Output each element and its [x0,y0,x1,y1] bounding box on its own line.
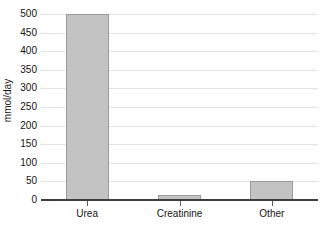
bars-layer [41,14,318,200]
y-tick-label: 350 [3,65,37,75]
y-tick-label: 200 [3,121,37,131]
y-tick-label: 50 [3,176,37,186]
bar-chart: mmol/day 500450400350300250200150100500 … [0,0,327,233]
y-tick-label: 450 [3,28,37,38]
y-axis-tick-labels: 500450400350300250200150100500 [0,14,37,200]
bar [250,181,293,200]
y-tick-label: 150 [3,139,37,149]
x-tick-mark [272,201,273,206]
bar [66,14,109,200]
y-tick-label: 250 [3,102,37,112]
y-tick-label: 0 [3,195,37,205]
x-tick-label: Creatinine [157,208,203,219]
y-tick-label: 100 [3,158,37,168]
x-tick-mark [180,201,181,206]
y-tick-label: 400 [3,46,37,56]
x-tick-label: Other [259,208,284,219]
x-tick-mark [87,201,88,206]
y-tick-label: 500 [3,9,37,19]
x-tick-label: Urea [76,208,98,219]
y-tick-label: 300 [3,83,37,93]
